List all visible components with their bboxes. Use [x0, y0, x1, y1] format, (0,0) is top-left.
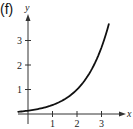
y-tick-label: 1 — [17, 84, 22, 95]
x-axis-label: x — [126, 108, 132, 119]
x-tick-label: 3 — [99, 118, 104, 129]
x-tick-label: 1 — [50, 118, 55, 129]
chart: x y 1 2 3 1 2 3 — [0, 0, 133, 129]
y-axis-label: y — [24, 2, 30, 13]
x-tick-label: 2 — [75, 118, 80, 129]
y-tick-label: 3 — [17, 35, 22, 46]
y-tick-label: 2 — [17, 60, 22, 71]
y-ticks: 1 2 3 — [17, 35, 31, 95]
exponential-curve — [18, 24, 109, 112]
x-axis-arrow-icon — [119, 112, 126, 117]
y-axis-arrow-icon — [26, 14, 31, 21]
